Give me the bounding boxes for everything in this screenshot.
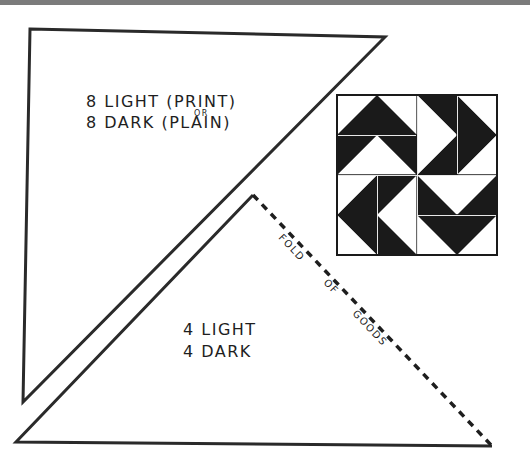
fold-word-2: OF <box>322 277 341 297</box>
pattern-diagram: 8 LIGHT (PRINT) OR 8 DARK (PLAIN) FOLD O… <box>0 0 530 461</box>
lower-label-line2: 4 DARK <box>183 342 252 361</box>
lower-label-line1: 4 LIGHT <box>183 320 257 339</box>
fold-word-3: GOODS <box>351 308 390 348</box>
upper-label-line1: 8 LIGHT (PRINT) <box>86 92 236 111</box>
upper-template-label: 8 LIGHT (PRINT) OR 8 DARK (PLAIN) <box>86 92 236 132</box>
quilt-block <box>337 95 497 255</box>
upper-label-line2: 8 DARK (PLAIN) <box>86 113 231 132</box>
lower-template-label: 4 LIGHT 4 DARK <box>183 320 257 361</box>
